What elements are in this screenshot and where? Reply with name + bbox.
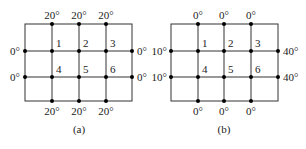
right-label: 0° [137, 71, 147, 83]
node-label: 2 [83, 37, 89, 49]
node-label: 2 [228, 37, 234, 49]
node-label: 1 [56, 37, 62, 49]
node-label: 4 [202, 63, 208, 75]
grid-diagram-a: 20° 20° 20° 20° 20° 20° 0° 0° 0° 0° 1 2 … [10, 9, 147, 136]
bottom-label: 0° [193, 105, 203, 117]
node-label: 3 [255, 37, 261, 49]
node-label: 4 [56, 63, 62, 75]
bottom-label: 0° [219, 105, 229, 117]
bottom-label: 20° [98, 105, 113, 117]
top-label: 0° [219, 9, 229, 21]
grid-diagram-b: 0° 0° 0° 0° 0° 0° 10° 10° 40° 40° 1 2 3 … [152, 9, 299, 136]
grid-lines-b [171, 24, 278, 101]
top-label: 0° [193, 9, 203, 21]
node-label: 3 [110, 37, 116, 49]
right-label: 0° [137, 45, 147, 57]
left-label: 0° [10, 45, 20, 57]
top-label: 20° [44, 9, 59, 21]
top-label: 20° [98, 9, 113, 21]
node-label: 1 [202, 37, 208, 49]
right-label: 40° [283, 71, 298, 83]
grid-lines-a [25, 24, 132, 101]
node-label: 6 [255, 63, 261, 75]
top-label: 0° [246, 9, 256, 21]
caption-a: (a) [73, 123, 86, 136]
left-label: 10° [152, 45, 167, 57]
node-label: 5 [228, 63, 234, 75]
bottom-label: 20° [71, 105, 86, 117]
caption-b: (b) [218, 123, 231, 136]
left-label: 10° [152, 71, 167, 83]
bottom-label: 0° [246, 105, 256, 117]
figure: 20° 20° 20° 20° 20° 20° 0° 0° 0° 0° 1 2 … [0, 0, 306, 149]
top-label: 20° [71, 9, 86, 21]
node-label: 5 [83, 63, 89, 75]
bottom-label: 20° [44, 105, 59, 117]
node-label: 6 [110, 63, 116, 75]
right-label: 40° [283, 45, 298, 57]
left-label: 0° [10, 71, 20, 83]
